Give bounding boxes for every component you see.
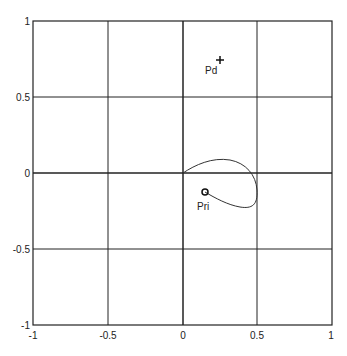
- svg-text:0.5: 0.5: [250, 330, 264, 341]
- grid: [33, 21, 332, 325]
- x-tick-labels: -1 -0.5 0 0.5 1: [29, 330, 335, 341]
- svg-text:0: 0: [180, 330, 186, 341]
- svg-text:-0.5: -0.5: [13, 244, 31, 255]
- svg-text:0.5: 0.5: [16, 92, 30, 103]
- pd-label: Pd: [205, 65, 217, 76]
- plot: 1 0.5 0 -0.5 -1 -1 -0.5 0 0.5 1 Pd Pri: [0, 0, 347, 356]
- svg-text:-1: -1: [29, 330, 38, 341]
- svg-text:1: 1: [328, 330, 334, 341]
- svg-text:0: 0: [24, 168, 30, 179]
- trajectory-curve: [183, 159, 257, 207]
- pd-plus-marker: [216, 56, 224, 64]
- y-tick-labels: 1 0.5 0 -0.5 -1: [13, 16, 31, 331]
- pri-label: Pri: [197, 201, 209, 212]
- svg-text:-0.5: -0.5: [99, 330, 117, 341]
- svg-text:1: 1: [24, 16, 30, 27]
